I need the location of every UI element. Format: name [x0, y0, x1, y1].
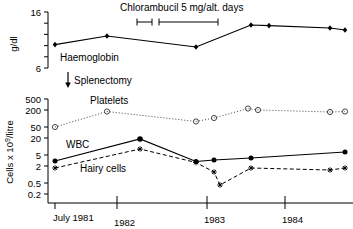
counts-tick-50: 50: [30, 122, 41, 133]
x-tick-1984: 1984: [282, 214, 303, 225]
counts-tick-20: 20: [30, 133, 41, 144]
haemoglobin-series-label: Haemoglobin: [60, 52, 119, 63]
counts-y-axis: [44, 99, 48, 203]
counts-tick-05: 0.5: [28, 178, 41, 189]
haemoglobin-series: [53, 22, 348, 50]
platelets-series: [52, 106, 347, 130]
wbc-series-label: WBC: [66, 139, 89, 150]
counts-tick-200: 200: [25, 105, 41, 116]
chart-canvas: 16 6 g/dl Haemoglobin Chlorambucil 5 mg/…: [0, 0, 353, 229]
splenectomy-label: Splenectomy: [74, 75, 132, 86]
counts-tick-500: 500: [25, 94, 41, 105]
platelets-series-label: Platelets: [90, 95, 128, 106]
counts-axis-title-main: Cells x 10: [4, 142, 15, 184]
counts-axis-title: Cells x 109/litre: [4, 120, 15, 184]
clinical-course-chart: 16 6 g/dl Haemoglobin Chlorambucil 5 mg/…: [0, 0, 353, 229]
svg-text:Cells x 109/litre: Cells x 109/litre: [4, 120, 15, 184]
chlorambucil-bar-2: [159, 19, 218, 26]
counts-tick-02: 0.2: [28, 189, 41, 200]
hb-tick-6: 6: [36, 63, 41, 74]
x-tick-1983: 1983: [204, 214, 225, 225]
wbc-series: [53, 136, 348, 164]
haemoglobin-axis-title: g/dl: [8, 36, 19, 51]
counts-tick-5: 5: [36, 150, 41, 161]
x-tick-1982: 1982: [114, 217, 135, 228]
chlorambucil-bar-1: [137, 19, 152, 26]
x-tick-july-1981: July 1981: [53, 212, 94, 223]
hairy-cells-series-label: Hairy cells: [80, 163, 126, 174]
counts-tick-2: 2: [36, 161, 41, 172]
counts-axis-title-tail: /litre: [4, 120, 15, 138]
chlorambucil-label: Chlorambucil 5 mg/alt. days: [120, 2, 243, 13]
haemoglobin-y-axis: [44, 12, 48, 68]
x-axis: [48, 196, 353, 209]
hb-tick-16: 16: [30, 7, 41, 18]
splenectomy-arrow-icon: [65, 72, 71, 88]
platelets-markers: [52, 106, 347, 130]
